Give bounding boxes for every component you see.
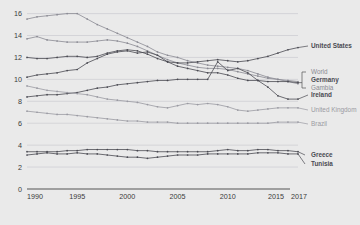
data-point (237, 150, 239, 152)
data-point (56, 151, 58, 153)
legend-label-united-states[interactable]: United States (311, 42, 352, 49)
data-point (147, 150, 149, 152)
data-point (197, 151, 199, 153)
data-point (66, 41, 68, 43)
legend-leader-ireland (298, 95, 308, 99)
data-point (247, 70, 249, 72)
legend-label-world[interactable]: World (311, 68, 328, 75)
data-point (267, 149, 269, 151)
data-point (66, 150, 68, 152)
legend-label-brazil[interactable]: Brazil (311, 120, 327, 127)
data-point (287, 107, 289, 109)
data-point (157, 151, 159, 153)
x-tick-label: 2005 (170, 192, 186, 201)
data-point (257, 73, 259, 75)
data-point (267, 81, 269, 83)
data-point (127, 156, 129, 158)
data-point (127, 100, 129, 102)
data-point (247, 80, 249, 82)
data-point (207, 68, 209, 70)
data-point (287, 153, 289, 155)
line-chart-plot: 0246810121416 19901995200020052010201520… (0, 0, 360, 225)
data-point (257, 109, 259, 111)
data-point (277, 152, 279, 154)
data-point (56, 91, 58, 93)
data-point (96, 117, 98, 119)
data-point (277, 81, 279, 83)
data-point (177, 105, 179, 107)
data-point (26, 96, 28, 98)
data-point (76, 115, 78, 117)
data-point (267, 55, 269, 57)
data-point (137, 41, 139, 43)
data-point (187, 151, 189, 153)
data-point (187, 60, 189, 62)
x-axis-ticklabels: 1990199520002005201020152017 (27, 192, 307, 201)
gridlines-group (27, 14, 298, 167)
data-point (277, 79, 279, 81)
x-tick-label: 1990 (27, 192, 43, 201)
x-tick-label: 2000 (119, 192, 135, 201)
legend-label-united-kingdom[interactable]: United Kingdom (311, 106, 356, 114)
legend-label-gambia[interactable]: Gambia (311, 84, 334, 91)
data-point (86, 18, 88, 20)
legend-label-tunisia[interactable]: Tunisia (311, 160, 333, 167)
data-point (197, 66, 199, 68)
data-point (36, 95, 38, 97)
data-point (26, 85, 28, 87)
data-point (167, 151, 169, 153)
data-point (96, 87, 98, 89)
y-tick-label: 16 (14, 9, 22, 18)
data-point (237, 68, 239, 70)
data-point (56, 14, 58, 16)
data-point (46, 73, 48, 75)
legend-label-greece[interactable]: Greece (311, 151, 333, 158)
data-point (26, 57, 28, 59)
y-tick-label: 14 (14, 31, 22, 40)
data-point (157, 80, 159, 82)
data-point (167, 80, 169, 82)
data-point (147, 104, 149, 106)
data-point (267, 152, 269, 154)
data-point (106, 86, 108, 88)
data-point (247, 122, 249, 124)
data-point (96, 153, 98, 155)
data-point (207, 151, 209, 153)
data-point (116, 84, 118, 86)
data-point (197, 61, 199, 63)
x-tick-label: 2010 (220, 192, 236, 201)
data-point (237, 122, 239, 124)
data-point (46, 89, 48, 91)
data-point (76, 55, 78, 57)
data-point (46, 39, 48, 41)
legend-bracket (302, 72, 306, 88)
data-point (287, 81, 289, 83)
data-point (287, 150, 289, 152)
data-point (106, 39, 108, 41)
data-point (96, 24, 98, 26)
data-point (36, 111, 38, 113)
data-point (26, 151, 28, 153)
legend-leader-united-kingdom (298, 108, 308, 110)
data-point (167, 61, 169, 63)
data-point (247, 60, 249, 62)
legend-label-ireland[interactable]: Ireland (311, 91, 332, 98)
data-point (26, 76, 28, 78)
data-point (147, 53, 149, 55)
data-point (106, 28, 108, 30)
data-point (177, 154, 179, 156)
data-point (36, 58, 38, 60)
series-line-germany (27, 51, 298, 83)
data-point (56, 94, 58, 96)
data-point (26, 110, 28, 112)
data-point (76, 93, 78, 95)
y-tick-label: 8 (18, 97, 22, 106)
data-point (217, 122, 219, 124)
data-point (207, 60, 209, 62)
data-point (207, 153, 209, 155)
data-point (217, 150, 219, 152)
data-point (227, 74, 229, 76)
data-point (137, 150, 139, 152)
data-point (177, 151, 179, 153)
data-point (257, 58, 259, 60)
